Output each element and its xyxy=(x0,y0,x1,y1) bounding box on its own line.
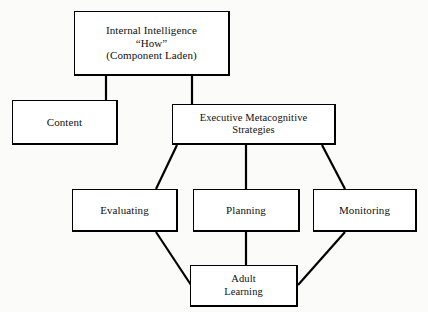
node-internal-intelligence[interactable]: Internal Intelligence “How” (Component L… xyxy=(74,11,230,76)
node-adult-learning-label: Adult Learning xyxy=(221,273,266,298)
node-planning[interactable]: Planning xyxy=(193,189,300,232)
node-internal-intelligence-label: Internal Intelligence “How” (Component L… xyxy=(103,24,200,63)
node-evaluating-label: Evaluating xyxy=(97,204,152,217)
diagram-canvas: Internal Intelligence “How” (Component L… xyxy=(0,0,428,312)
node-planning-label: Planning xyxy=(223,204,269,217)
node-adult-learning[interactable]: Adult Learning xyxy=(190,265,298,307)
node-content[interactable]: Content xyxy=(12,100,118,145)
node-executive-metacognitive-strategies-label: Executive Metacognitive Strategies xyxy=(197,112,311,137)
node-content-label: Content xyxy=(44,116,86,129)
node-executive-metacognitive-strategies[interactable]: Executive Metacognitive Strategies xyxy=(172,104,336,145)
node-monitoring-label: Monitoring xyxy=(336,204,393,217)
node-evaluating[interactable]: Evaluating xyxy=(72,189,178,232)
connector-executive-to-monitoring xyxy=(322,145,345,189)
connector-evaluating-to-adult-learning xyxy=(156,232,191,285)
node-monitoring[interactable]: Monitoring xyxy=(313,189,417,232)
connector-monitoring-to-adult-learning xyxy=(298,232,345,285)
connector-executive-to-evaluating xyxy=(156,145,177,189)
